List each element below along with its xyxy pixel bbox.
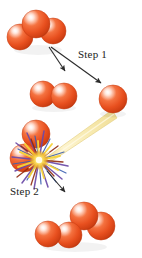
atom-sphere (35, 221, 61, 247)
atom-sphere (99, 85, 127, 113)
molecule-single-atom-right (99, 85, 127, 118)
atom-sphere (51, 83, 77, 109)
reaction-mechanism-illustration (0, 0, 142, 258)
step-2-label: Step 2 (10, 186, 39, 197)
atom-sphere (22, 10, 50, 38)
step-1-label: Step 1 (78, 49, 107, 60)
figure-canvas: Step 1 Step 2 (0, 0, 142, 258)
